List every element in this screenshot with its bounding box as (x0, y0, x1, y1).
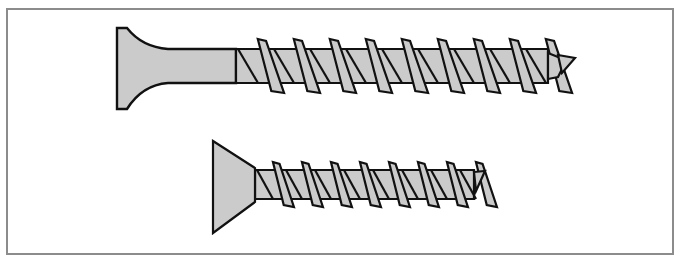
bugle-head (117, 28, 236, 109)
long-screw-icon (117, 28, 575, 109)
screws-illustration (0, 0, 679, 260)
short-screw-icon (213, 141, 497, 233)
tip-point (558, 55, 575, 73)
flat-head (213, 141, 255, 233)
